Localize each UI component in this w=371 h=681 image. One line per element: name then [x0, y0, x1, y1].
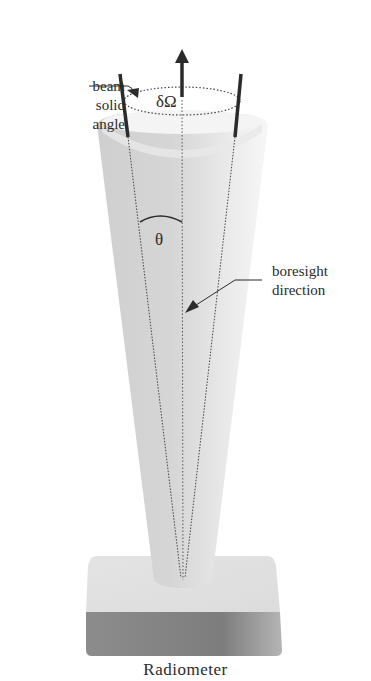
boresight-direction-label: boresight direction	[272, 262, 328, 300]
solid-angle-symbol: δΩ	[156, 92, 177, 112]
radiometer-label: Radiometer	[0, 660, 371, 680]
up-arrow-icon	[175, 49, 189, 97]
label-line-boresight: boresight	[272, 262, 328, 281]
label-line-solid: solid	[35, 96, 125, 115]
label-line-beam: beam	[35, 77, 125, 96]
theta-symbol: θ	[155, 230, 163, 250]
label-line-angle: angle	[35, 115, 125, 134]
label-line-direction: direction	[272, 281, 328, 300]
beam-solid-angle-label: beam solid angle	[35, 77, 125, 134]
